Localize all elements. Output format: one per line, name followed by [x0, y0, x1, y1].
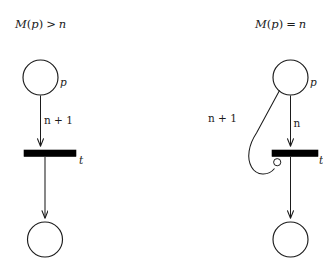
inhibitor-arc-endpoint-icon: [274, 159, 281, 166]
right-input-arc-weight: n: [294, 117, 301, 129]
right-inhibitor-arc-weight: n + 1: [208, 112, 237, 124]
left-input-arc-weight: n + 1: [44, 114, 73, 126]
right-source-place-label: p: [310, 76, 317, 88]
left-source-place-label: p: [60, 76, 67, 88]
right-target-place[interactable]: [273, 222, 308, 257]
left-source-place[interactable]: [23, 60, 58, 95]
left-condition-label: M(p)>n: [14, 17, 66, 31]
panel-left: M(p)>n p n + 1 t: [14, 17, 84, 257]
figure-canvas: M(p)>n p n + 1 t M(p)=n p: [0, 0, 323, 265]
left-cond-bound: n: [59, 17, 66, 31]
left-target-place[interactable]: [28, 222, 63, 257]
petri-net-figure: M(p)>n p n + 1 t M(p)=n p: [0, 0, 323, 265]
right-transition-label: t: [319, 154, 323, 166]
panel-right: M(p)=n p n + 1 n t: [208, 17, 323, 257]
right-condition-label: M(p)=n: [254, 17, 306, 31]
left-cond-close: ): [39, 17, 44, 31]
left-transition-label: t: [79, 154, 84, 166]
right-cond-close: ): [279, 17, 284, 31]
left-transition[interactable]: [24, 150, 76, 157]
right-cond-relation: =: [286, 17, 296, 31]
left-cond-relation: >: [46, 17, 56, 31]
right-transition[interactable]: [272, 150, 318, 157]
right-cond-bound: n: [299, 17, 306, 31]
right-source-place[interactable]: [273, 60, 308, 95]
